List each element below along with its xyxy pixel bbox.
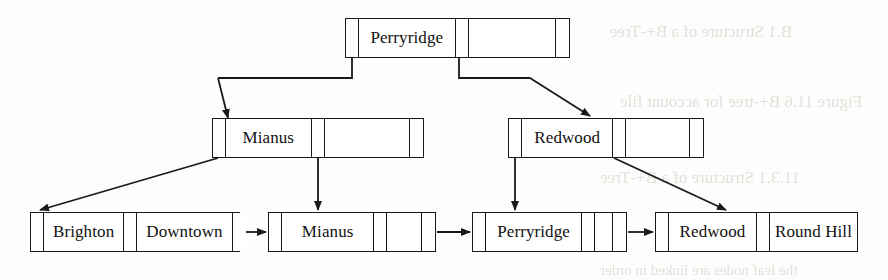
internal-node-mianus-empty-slot-3 — [325, 119, 410, 157]
leaf-node-perryridge-pointer-4 — [613, 213, 626, 251]
root-node-key-1[interactable]: Perryridge — [359, 19, 456, 57]
leaf-node-perryridge-key-1[interactable]: Perryridge — [486, 213, 582, 251]
leaf-node-mianus-pointer-4 — [422, 213, 435, 251]
bleed-text-mid: Figure 11.6 B+-tree for account file — [620, 92, 862, 112]
leaf-node-redwood-roundhill-pointer-0 — [656, 213, 669, 251]
leaf-node-mianus[interactable]: Mianus — [268, 212, 436, 252]
leaf-node-brighton-downtown-pointer-4 — [233, 213, 246, 251]
root-node-pointer-2 — [456, 19, 469, 57]
root-node[interactable]: Perryridge — [345, 18, 570, 58]
leaf-node-brighton-downtown-key-1[interactable]: Brighton — [44, 213, 124, 251]
bleed-text-bottom: the leaf nodes are linked in order — [600, 262, 797, 279]
bleed-text-top: B.1 Structure of a B+-Tree — [610, 22, 792, 42]
leaf-node-redwood-roundhill-key-3[interactable]: Round Hill — [770, 213, 857, 251]
leaf-node-mianus-empty-slot-3 — [387, 213, 422, 251]
leaf-node-perryridge-pointer-2 — [582, 213, 595, 251]
internal-node-mianus-key-1[interactable]: Mianus — [226, 119, 312, 157]
leaf-node-mianus-pointer-2 — [374, 213, 387, 251]
bleed-text-lower: 11.3.1 Structure of a B+-Tree — [600, 168, 800, 188]
internal-node-redwood-pointer-2 — [613, 119, 626, 157]
root-node-pointer-4 — [556, 19, 569, 57]
leaf-node-mianus-key-1[interactable]: Mianus — [282, 213, 374, 251]
edge-root-to-mianus — [218, 58, 352, 118]
root-node-pointer-0 — [346, 19, 359, 57]
edge-redwood-to-leaf4 — [614, 158, 726, 210]
leaf-node-brighton-downtown-key-3[interactable]: Downtown — [137, 213, 232, 251]
leaf-node-brighton-downtown-pointer-0 — [31, 213, 44, 251]
leaf-node-brighton-downtown-pointer-2 — [124, 213, 137, 251]
leaf-node-perryridge-empty-slot-3 — [595, 213, 613, 251]
edge-root-to-redwood — [459, 58, 590, 116]
leaf-node-redwood-roundhill[interactable]: RedwoodRound Hill — [655, 212, 858, 252]
internal-node-redwood[interactable]: Redwood — [508, 118, 704, 158]
internal-node-redwood-pointer-0 — [509, 119, 522, 157]
internal-node-mianus-pointer-4 — [410, 119, 423, 157]
internal-node-mianus[interactable]: Mianus — [212, 118, 424, 158]
internal-node-mianus-pointer-2 — [312, 119, 325, 157]
figure-canvas: B.1 Structure of a B+-TreeFigure 11.6 B+… — [0, 0, 888, 280]
edge-mianus-to-leaf1 — [40, 158, 218, 210]
leaf-node-redwood-roundhill-key-1[interactable]: Redwood — [669, 213, 757, 251]
leaf-node-mianus-pointer-0 — [269, 213, 282, 251]
internal-node-redwood-key-1[interactable]: Redwood — [522, 119, 613, 157]
root-node-empty-slot-3 — [469, 19, 556, 57]
internal-node-redwood-empty-slot-3 — [626, 119, 690, 157]
leaf-node-perryridge[interactable]: Perryridge — [472, 212, 627, 252]
leaf-node-redwood-roundhill-pointer-2 — [757, 213, 770, 251]
leaf-node-perryridge-pointer-0 — [473, 213, 486, 251]
leaf-node-brighton-downtown[interactable]: BrightonDowntown — [30, 212, 240, 252]
internal-node-mianus-pointer-0 — [213, 119, 226, 157]
internal-node-redwood-pointer-4 — [690, 119, 703, 157]
